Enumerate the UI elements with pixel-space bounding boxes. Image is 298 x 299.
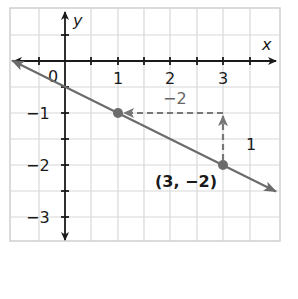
y-axis-label: y [72,11,83,30]
slope-indicator [124,113,223,160]
y-tick-label-neg1: −1 [26,104,50,123]
x-tick-label-2: 2 [165,69,175,88]
coordinate-graph: y x 0 1 2 3 −1 −2 −3 −2 1 (3, −2) [0,0,298,299]
rise-label: 1 [246,135,256,154]
y-tick-label-neg2: −2 [26,156,50,175]
x-tick-label-3: 3 [218,69,228,88]
x-tick-label-1: 1 [113,69,123,88]
point-1-neg1 [113,108,123,118]
y-tick-label-neg3: −3 [26,208,50,227]
grid [10,8,280,241]
point-3-neg2 [218,160,228,170]
x-axis-label: x [261,35,272,54]
run-label: −2 [163,89,187,108]
point-label: (3, −2) [155,172,217,191]
